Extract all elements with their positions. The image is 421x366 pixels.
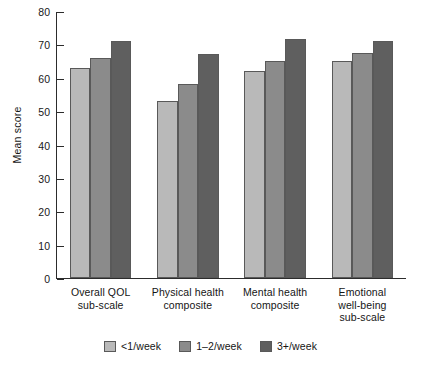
legend-item: 3+/week (260, 340, 317, 352)
legend-label: 1–2/week (196, 340, 242, 352)
bar (198, 54, 219, 278)
bar (373, 41, 394, 278)
category-label-line: Emotional (307, 286, 418, 299)
bar (157, 101, 178, 278)
y-tick-mark (57, 279, 64, 280)
y-tick-label: 30 (38, 173, 50, 185)
y-tick-label: 0 (44, 273, 50, 285)
legend-item: 1–2/week (179, 340, 242, 352)
legend-item: <1/week (104, 340, 161, 352)
y-tick: 0 (56, 279, 65, 280)
bar (70, 68, 91, 278)
y-tick-label: 10 (38, 240, 50, 252)
bar (265, 61, 286, 278)
bar (244, 71, 265, 278)
bar-group (332, 12, 394, 278)
legend-label: <1/week (121, 340, 161, 352)
x-axis-category-labels: Overall QOLsub-scalePhysical healthcompo… (57, 286, 406, 330)
y-tick-label: 40 (38, 140, 50, 152)
y-tick-label: 50 (38, 106, 50, 118)
category-label-line: well-being (307, 299, 418, 312)
bar (178, 84, 199, 278)
legend-swatch (104, 341, 116, 352)
bar (90, 58, 111, 278)
bar-chart-figure: Mean score 01020304050607080 Overall QOL… (0, 0, 421, 366)
plot-area: 01020304050607080 (56, 12, 406, 279)
bar-group (157, 12, 219, 278)
legend-swatch (260, 341, 272, 352)
bar-groups (57, 12, 406, 279)
bar (332, 61, 353, 278)
y-tick-label: 70 (38, 39, 50, 51)
bar (285, 39, 306, 278)
y-tick-label: 20 (38, 206, 50, 218)
chart-legend: <1/week1–2/week3+/week (0, 340, 421, 352)
legend-label: 3+/week (277, 340, 317, 352)
clipped-figure-title (0, 0, 421, 3)
bar (352, 53, 373, 278)
y-tick-label: 60 (38, 73, 50, 85)
y-axis-label: Mean score (11, 95, 23, 175)
bar-group (70, 12, 132, 278)
bar-group (244, 12, 306, 278)
y-tick-label: 80 (38, 6, 50, 18)
category-label-line: sub-scale (307, 311, 418, 324)
category-label: Emotionalwell-beingsub-scale (307, 286, 418, 324)
bar (111, 41, 132, 278)
legend-swatch (179, 341, 191, 352)
